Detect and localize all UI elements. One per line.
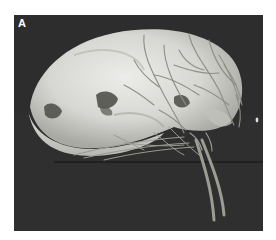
skull-vascular-image xyxy=(14,15,263,231)
panel-label: A xyxy=(18,18,26,29)
figure-panel-a: A xyxy=(14,15,263,231)
speck xyxy=(256,118,259,123)
figure: A xyxy=(0,0,276,240)
